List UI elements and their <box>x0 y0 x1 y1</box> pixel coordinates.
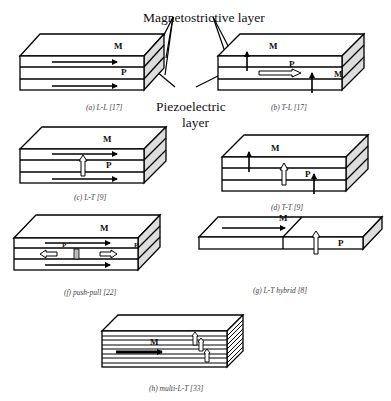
panel-h-m-label: M <box>150 337 159 347</box>
panel-g-l-t-hybrid: M P (g) L-T hybrid [8] <box>199 213 382 295</box>
panel-f-p-label: P <box>62 241 67 249</box>
panel-g-caption: (g) L-T hybrid [8] <box>253 286 307 295</box>
panel-c-m-label: M <box>103 134 112 144</box>
piezoelectric-layer-callout-line2: layer <box>182 115 209 130</box>
panel-b-m-label: M <box>269 41 278 51</box>
panel-c-l-t: M P (c) L-T [9] <box>20 127 166 202</box>
panel-d-t-t: M P (d) T-T [9] <box>222 135 368 212</box>
panel-d-p-label: P <box>305 169 311 179</box>
panel-a-l-l: M P (a) L-L [17] <box>20 34 164 112</box>
panel-a-m-label: M <box>114 41 123 51</box>
panel-f-caption: (f) push-pull [22] <box>64 288 117 297</box>
panel-g-m-label: M <box>279 213 288 223</box>
panel-a-p-label: P <box>121 67 127 77</box>
panel-c-p-label: P <box>106 160 112 170</box>
panel-h-caption: (h) multi-L-T [33] <box>149 384 204 393</box>
magnetoelectric-laminate-diagram: Magnetostrictive layer Piezoelectric lay… <box>0 0 391 401</box>
panel-d-caption: (d) T-T [9] <box>271 203 303 212</box>
piezoelectric-layer-callout-line1: Piezoelectric <box>156 99 226 114</box>
panel-b-caption: (b) T-L [17] <box>271 103 307 112</box>
panel-b-m2-label: M <box>334 69 343 79</box>
panel-h-multi-l-t: M (h) multi-L-T [33] <box>102 315 243 393</box>
panel-c-caption: (c) L-T [9] <box>74 193 106 202</box>
panel-b-t-l: M P M (b) T-L [17] <box>218 34 364 112</box>
panel-a-caption: (a) L-L [17] <box>86 103 123 112</box>
panel-d-m-label: M <box>271 143 280 153</box>
panel-f-m-label: M <box>100 223 109 233</box>
magnetostrictive-layer-callout: Magnetostrictive layer <box>143 10 265 25</box>
panel-b-p-label: P <box>289 59 295 69</box>
panel-f-push-pull: M P P (f) push-pull [22] <box>14 215 160 297</box>
panel-g-p-label: P <box>338 238 344 248</box>
panel-f-p2-label: P <box>134 241 139 249</box>
